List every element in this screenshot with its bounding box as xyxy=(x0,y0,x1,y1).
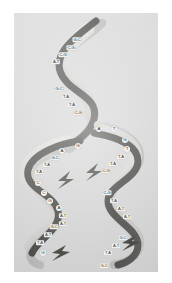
dna-replication-figure-panel: G-C C-G C-G A-T G-C T-A T-A C-G A T G T … xyxy=(14,13,158,272)
left-arrowhead-upper xyxy=(58,171,74,189)
left-arrowhead-lower xyxy=(52,245,70,261)
dna-helix-illustration xyxy=(14,13,158,272)
right-daughter-ribbons xyxy=(86,125,140,265)
left-daughter-ribbons xyxy=(26,141,80,265)
right-arrowhead-upper xyxy=(86,163,102,181)
figure-root: G-C C-G C-G A-T G-C T-A T-A C-G A T G T … xyxy=(0,0,172,283)
